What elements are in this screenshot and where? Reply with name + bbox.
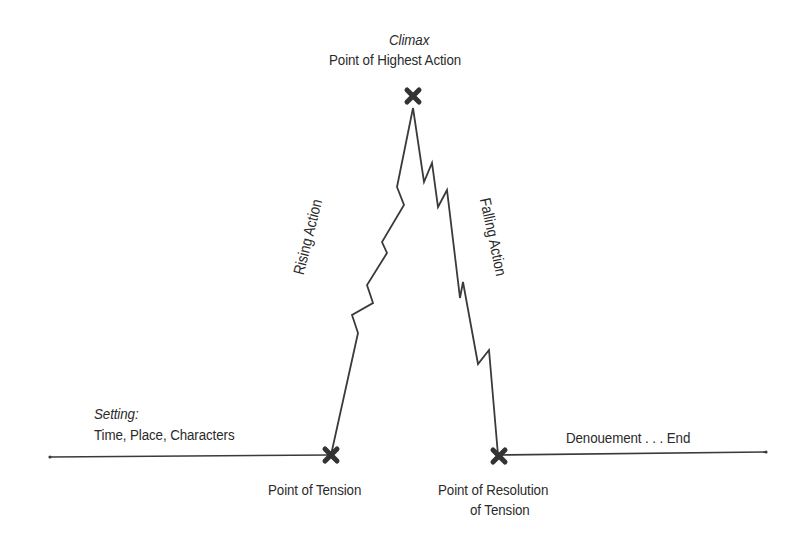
setting-title: Setting: xyxy=(94,404,139,423)
plot-diagram-lines xyxy=(0,0,809,548)
plot-diagram: Climax Point of Highest Action Rising Ac… xyxy=(0,0,809,548)
falling-action-line xyxy=(413,108,498,455)
climax-title: Climax xyxy=(389,30,429,49)
rising-action-line xyxy=(331,108,413,455)
setting-baseline xyxy=(50,455,331,457)
point-of-tension-label: Point of Tension xyxy=(268,480,361,499)
baseline-start-dot xyxy=(48,455,51,458)
resolution-marker-icon xyxy=(493,450,505,462)
point-of-resolution-line1: Point of Resolution xyxy=(438,480,548,499)
point-of-resolution-line2: of Tension xyxy=(470,500,530,519)
climax-subtitle: Point of Highest Action xyxy=(329,50,461,69)
setting-subtitle: Time, Place, Characters xyxy=(94,425,235,444)
denouement-baseline xyxy=(498,452,766,455)
baseline-end-dot xyxy=(764,450,767,453)
climax-marker-icon xyxy=(407,90,419,102)
denouement-label: Denouement . . . End xyxy=(566,428,690,447)
